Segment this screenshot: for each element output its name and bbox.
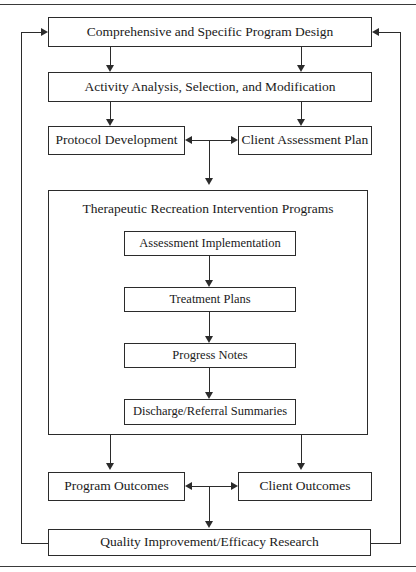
node-program-design-label: Comprehensive and Specific Program Desig… <box>87 25 334 39</box>
connector-activity-protocol-arrowhead <box>106 119 114 126</box>
node-quality-improvement[interactable]: Quality Improvement/Efficacy Research <box>48 529 371 556</box>
connector-progress-discharge-line <box>209 368 210 392</box>
feedback-left-horizontal-top <box>21 32 42 33</box>
connector-outcomes-horizontal <box>192 486 231 487</box>
connector-design-activity-right-arrowhead <box>297 65 305 72</box>
node-assessment-implementation-label: Assessment Implementation <box>139 237 280 250</box>
feedback-right-horizontal-bottom <box>371 543 400 544</box>
connector-client-outcomes-arrowhead <box>231 482 238 490</box>
feedback-right-arrowhead <box>372 28 379 36</box>
connector-assessment-treatment-arrowhead <box>205 280 213 287</box>
connector-protocol-client-horizontal <box>192 140 231 141</box>
node-discharge-referral-summaries[interactable]: Discharge/Referral Summaries <box>124 399 296 425</box>
connector-tr-client-outcomes-line <box>301 435 302 463</box>
connector-junction-to-tr-arrowhead <box>205 178 213 185</box>
node-client-assessment-plan-label: Client Assessment Plan <box>242 133 369 147</box>
node-client-assessment-plan[interactable]: Client Assessment Plan <box>238 126 372 155</box>
feedback-left-horizontal-bottom <box>21 543 49 544</box>
node-treatment-plans-label: Treatment Plans <box>169 293 250 306</box>
node-client-outcomes-label: Client Outcomes <box>259 479 350 493</box>
node-client-outcomes[interactable]: Client Outcomes <box>238 472 372 501</box>
feedback-right-vertical <box>400 32 401 544</box>
connector-treatment-progress-line <box>209 312 210 336</box>
node-protocol-development[interactable]: Protocol Development <box>48 126 185 155</box>
connector-program-outcomes-arrowhead <box>185 482 192 490</box>
node-quality-improvement-label: Quality Improvement/Efficacy Research <box>100 535 319 549</box>
node-protocol-development-label: Protocol Development <box>56 133 178 147</box>
node-program-outcomes[interactable]: Program Outcomes <box>48 472 185 501</box>
node-program-design[interactable]: Comprehensive and Specific Program Desig… <box>48 17 372 47</box>
connector-progress-discharge-arrowhead <box>205 392 213 399</box>
node-assessment-implementation[interactable]: Assessment Implementation <box>124 231 296 256</box>
connector-assessment-treatment-line <box>209 256 210 280</box>
connector-design-activity-right-line <box>301 47 302 65</box>
node-program-outcomes-label: Program Outcomes <box>64 479 169 493</box>
connector-activity-client-line <box>301 102 302 119</box>
node-tr-intervention-programs-label: Therapeutic Recreation Intervention Prog… <box>49 201 367 217</box>
node-activity-analysis-label: Activity Analysis, Selection, and Modifi… <box>84 80 335 94</box>
connector-protocol-arrowhead <box>185 136 192 144</box>
connector-outcomes-quality-line <box>209 486 210 521</box>
connector-design-activity-left-arrowhead <box>106 65 114 72</box>
node-progress-notes[interactable]: Progress Notes <box>124 343 296 368</box>
node-treatment-plans[interactable]: Treatment Plans <box>124 287 296 312</box>
page-rule-top <box>0 4 416 5</box>
node-activity-analysis[interactable]: Activity Analysis, Selection, and Modifi… <box>48 72 372 102</box>
page-rule-bottom <box>0 566 416 567</box>
connector-client-arrowhead <box>231 136 238 144</box>
feedback-left-arrowhead <box>41 28 48 36</box>
connector-treatment-progress-arrowhead <box>205 336 213 343</box>
flowchart-diagram: Comprehensive and Specific Program Desig… <box>0 0 416 572</box>
connector-junction-to-tr-line <box>209 140 210 178</box>
feedback-left-vertical <box>21 32 22 544</box>
feedback-right-horizontal-top <box>379 32 401 33</box>
connector-tr-client-outcomes-arrowhead <box>297 463 305 470</box>
connector-activity-client-arrowhead <box>297 119 305 126</box>
connector-design-activity-left-line <box>110 47 111 65</box>
connector-outcomes-quality-arrowhead <box>205 521 213 528</box>
connector-tr-program-outcomes-line <box>110 435 111 463</box>
node-progress-notes-label: Progress Notes <box>172 349 247 362</box>
connector-activity-protocol-line <box>110 102 111 119</box>
connector-tr-program-outcomes-arrowhead <box>106 463 114 470</box>
node-discharge-referral-summaries-label: Discharge/Referral Summaries <box>133 405 287 418</box>
